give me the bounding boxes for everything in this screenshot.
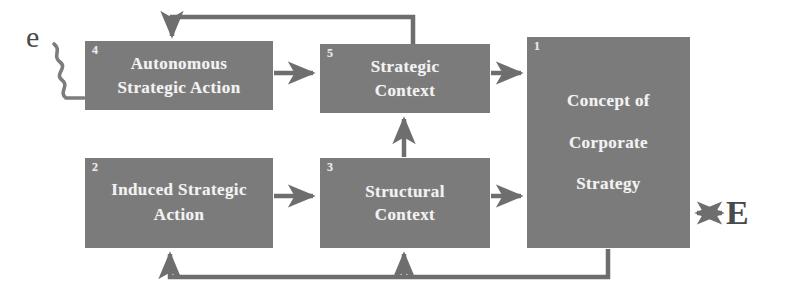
- edge-feedback-1-to-2: [170, 249, 608, 277]
- node-label-5: Strategic Context: [361, 55, 450, 102]
- node-index-3: 3: [327, 161, 333, 173]
- node-index-4: 4: [92, 44, 98, 56]
- node-label-4: Autonomous Strategic Action: [107, 52, 250, 99]
- edge-wavy-e-to-4: [54, 44, 84, 98]
- node-strategic-context[interactable]: 5 Strategic Context: [320, 44, 490, 113]
- node-index-2: 2: [92, 161, 98, 173]
- node-index-5: 5: [327, 47, 333, 59]
- node-label-3: Structural Context: [355, 180, 455, 227]
- node-structural-context[interactable]: 3 Structural Context: [320, 158, 490, 248]
- node-label-1: Concept of Corporate Strategy: [557, 80, 660, 205]
- edge-feedback-5-to-4: [172, 17, 413, 44]
- node-label-2: Induced Strategic Action: [101, 178, 257, 227]
- node-concept-of-corporate-strategy[interactable]: 1 Concept of Corporate Strategy: [527, 37, 690, 248]
- diagram-canvas: 4 Autonomous Strategic Action 5 Strategi…: [0, 0, 790, 305]
- external-label-e: e: [26, 22, 39, 52]
- external-label-E: E: [726, 196, 749, 230]
- node-index-1: 1: [534, 40, 540, 52]
- node-autonomous-strategic-action[interactable]: 4 Autonomous Strategic Action: [85, 41, 273, 110]
- node-induced-strategic-action[interactable]: 2 Induced Strategic Action: [85, 158, 273, 248]
